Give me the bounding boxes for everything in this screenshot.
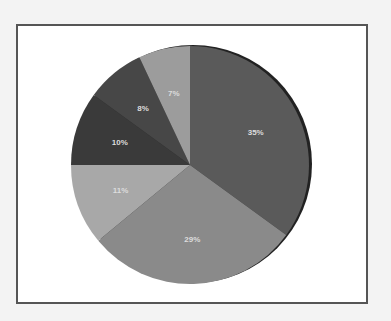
slice-label: 10% [112, 138, 128, 147]
slice-label: 8% [137, 104, 149, 113]
slice-label: 11% [113, 186, 129, 195]
pie-chart: 35%29%11%10%8%7% [0, 0, 391, 321]
slice-label: 7% [168, 89, 180, 98]
slice-label: 35% [248, 128, 264, 137]
slice-label: 29% [184, 235, 200, 244]
